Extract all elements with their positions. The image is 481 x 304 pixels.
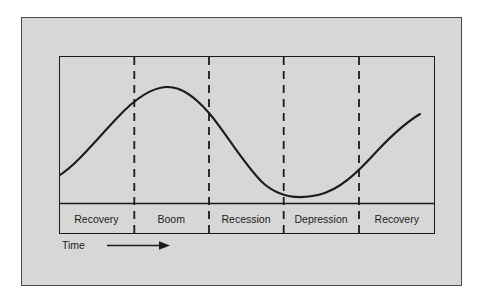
phase-label-boom: Boom xyxy=(134,203,209,234)
phase-label-depression: Depression xyxy=(283,203,358,234)
phase-label-recovery-2: Recovery xyxy=(359,203,435,234)
phase-label-recovery-1: Recovery xyxy=(59,203,134,234)
phase-label-recession: Recession xyxy=(209,203,284,234)
phase-label-band: Recovery Boom Recession Depression Recov… xyxy=(59,203,435,234)
time-axis-row: Time xyxy=(62,237,171,253)
right-arrow-icon xyxy=(107,240,171,251)
business-cycle-figure: Level of Business Activity Recovery Boom… xyxy=(0,0,481,304)
x-axis-label: Time xyxy=(62,239,85,251)
